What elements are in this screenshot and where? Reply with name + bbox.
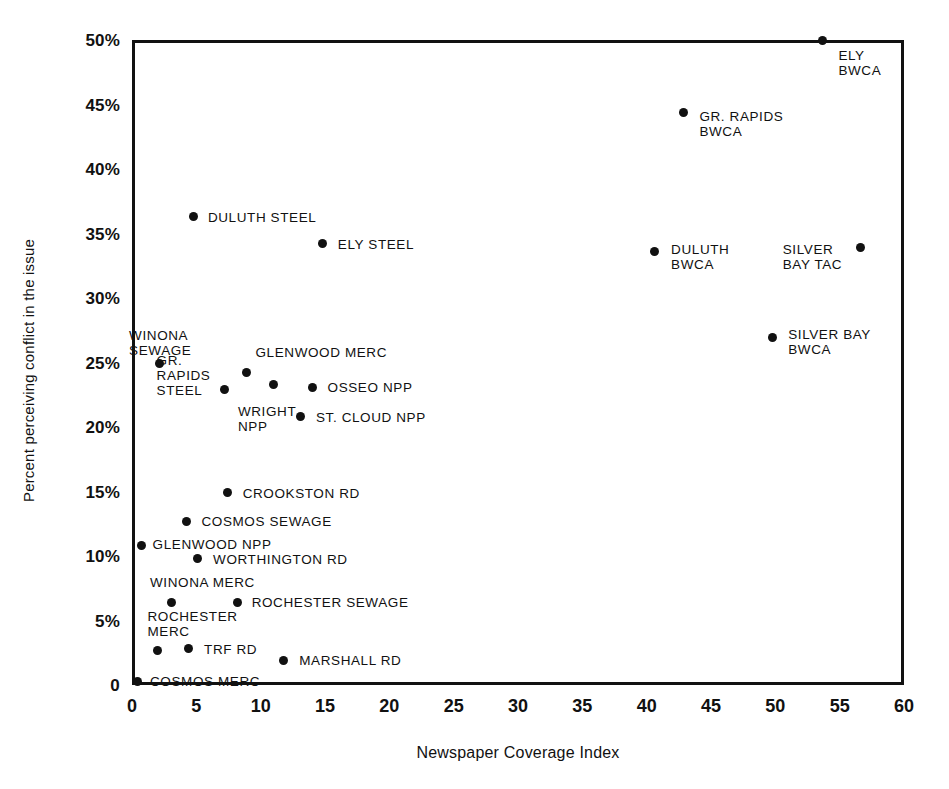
x-axis-tick-20: 20: [367, 697, 411, 715]
data-point-wright-npp[interactable]: [269, 380, 278, 389]
y-axis-tick-40: 40%: [58, 161, 120, 178]
x-axis-tick-40: 40: [625, 697, 669, 715]
x-axis-tick-55: 55: [818, 697, 862, 715]
y-axis-tick-25: 25%: [58, 354, 120, 371]
data-label-duluth-bwca: DULUTH BWCA: [671, 242, 729, 272]
data-label-worthington-rd: WORTHINGTON RD: [213, 551, 348, 566]
data-point-ely-bwca[interactable]: [818, 36, 827, 45]
y-axis-tick-45: 45%: [58, 96, 120, 113]
x-axis-tick-50: 50: [753, 697, 797, 715]
data-label-ely-steel: ELY STEEL: [338, 236, 414, 251]
data-label-duluth-steel: DULUTH STEEL: [208, 209, 316, 224]
x-axis-tick-5: 5: [174, 697, 218, 715]
y-axis-tick-0: 0: [58, 677, 120, 694]
y-axis-tick-20: 20%: [58, 419, 120, 436]
data-label-silver-bay-bwca: SILVER BAY BWCA: [788, 327, 871, 357]
data-label-marshall-rd: MARSHALL RD: [299, 653, 401, 668]
y-axis-tick-15: 15%: [58, 483, 120, 500]
y-axis-tick-50: 50%: [58, 32, 120, 49]
data-point-osseo-npp[interactable]: [308, 383, 317, 392]
data-label-rochester-merc: ROCHESTER MERC: [147, 609, 237, 639]
data-point-crookston-rd[interactable]: [223, 488, 232, 497]
data-point-rochester-sewage[interactable]: [233, 598, 242, 607]
data-point-glenwood-npp[interactable]: [137, 541, 146, 550]
data-label-cosmos-merc: COSMOS MERC: [150, 674, 260, 689]
data-point-rochester-merc[interactable]: [153, 646, 162, 655]
data-label-crookston-rd: CROOKSTON RD: [243, 485, 360, 500]
data-label-ely-bwca: ELY BWCA: [838, 48, 881, 78]
y-axis-tick-10: 10%: [58, 548, 120, 565]
data-label-gr-rapids-bwca: GR. RAPIDS BWCA: [699, 109, 783, 139]
y-axis-tick-35: 35%: [58, 225, 120, 242]
data-label-glenwood-merc: GLENWOOD MERC: [256, 345, 388, 360]
data-point-cosmos-merc[interactable]: [133, 677, 142, 686]
data-point-duluth-bwca[interactable]: [650, 247, 659, 256]
data-point-cosmos-sewage[interactable]: [182, 517, 191, 526]
data-label-wright-npp: WRIGHT NPP: [238, 404, 296, 434]
y-axis-title: Percent perceiving conflict in the issue: [20, 191, 37, 551]
data-point-silver-bay-tac[interactable]: [856, 243, 865, 252]
x-axis-tick-labels: 051015202530354045505560: [0, 697, 949, 723]
data-label-osseo-npp: OSSEO NPP: [328, 380, 413, 395]
x-axis-tick-30: 30: [496, 697, 540, 715]
x-axis-tick-45: 45: [689, 697, 733, 715]
data-label-gr-rapids-steel: GR. RAPIDS STEEL: [157, 353, 211, 398]
x-axis-title: Newspaper Coverage Index: [132, 744, 904, 762]
data-label-st-cloud-npp: ST. CLOUD NPP: [316, 409, 426, 424]
x-axis-tick-15: 15: [303, 697, 347, 715]
data-label-trf-rd: TRF RD: [204, 641, 257, 656]
data-label-glenwood-npp: GLENWOOD NPP: [153, 537, 272, 552]
data-label-rochester-sewage: ROCHESTER SEWAGE: [252, 595, 409, 610]
y-axis-tick-5: 5%: [58, 612, 120, 629]
y-axis-tick-30: 30%: [58, 290, 120, 307]
x-axis-tick-25: 25: [432, 697, 476, 715]
x-axis-tick-35: 35: [560, 697, 604, 715]
x-axis-tick-10: 10: [239, 697, 283, 715]
data-label-cosmos-sewage: COSMOS SEWAGE: [201, 514, 331, 529]
data-label-winona-merc: WINONA MERC: [150, 574, 255, 589]
data-label-silver-bay-tac: SILVER BAY TAC: [783, 242, 842, 272]
scatter-chart-figure: 05%10%15%20%25%30%35%40%45%50% 051015202…: [0, 0, 949, 789]
x-axis-tick-60: 60: [882, 697, 926, 715]
y-axis-tick-labels: 05%10%15%20%25%30%35%40%45%50%: [55, 0, 120, 789]
x-axis-tick-0: 0: [110, 697, 154, 715]
